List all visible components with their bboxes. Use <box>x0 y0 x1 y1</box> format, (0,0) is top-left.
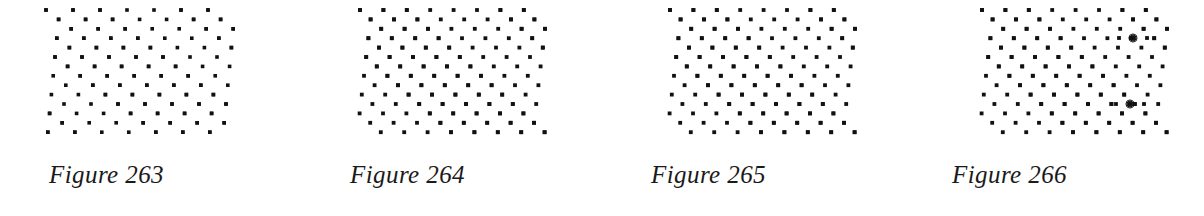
lattice-dot <box>1142 27 1146 31</box>
lattice-dot <box>518 46 522 50</box>
lattice-dot <box>358 8 362 12</box>
lattice-dot <box>749 121 753 125</box>
lattice-dot <box>783 130 787 134</box>
lattice-dot <box>541 46 545 50</box>
lattice-dot <box>1086 102 1090 106</box>
lattice-dot <box>120 65 124 69</box>
lattice-dot <box>369 18 373 22</box>
figure-caption: Figure 265 <box>602 160 903 190</box>
lattice-dot <box>78 74 82 78</box>
lattice-dot <box>1154 121 1158 125</box>
lattice-dot <box>847 83 851 87</box>
lattice-dot <box>382 8 386 12</box>
lattice-dot <box>192 18 196 22</box>
lattice-dot <box>513 83 517 87</box>
lattice-dot <box>1072 27 1076 31</box>
lattice-dot <box>403 27 407 31</box>
lattice-dot <box>515 65 519 69</box>
lattice-dot <box>219 18 223 22</box>
lattice-dot <box>1107 121 1111 125</box>
lattice-dot <box>851 46 855 50</box>
lattice-dot <box>836 74 840 78</box>
lattice-dot <box>143 102 147 106</box>
lattice-dot <box>749 18 753 22</box>
lattice-dot <box>1044 65 1048 69</box>
lattice-dot <box>165 18 169 22</box>
lattice-dot <box>371 102 375 106</box>
lattice-dot <box>212 93 216 97</box>
lattice-dot <box>670 93 674 97</box>
lattice-dot <box>781 46 785 50</box>
lattice-dot <box>1018 83 1022 87</box>
lattice-dot <box>102 112 106 116</box>
lattice-dot <box>57 18 61 22</box>
lattice-dot <box>1118 130 1122 134</box>
lattice-dot <box>46 130 50 134</box>
lattice-dot <box>172 83 176 87</box>
lattice-dot <box>715 8 719 12</box>
lattice-dot <box>1008 74 1012 78</box>
lattice-dot <box>1152 36 1156 40</box>
lattice-dot <box>1144 112 1148 116</box>
lattice-dot <box>1061 121 1065 125</box>
lattice-dot <box>84 18 88 22</box>
lattice-dot <box>522 8 526 12</box>
lattice-dot <box>991 18 995 22</box>
lattice-dot <box>1078 74 1082 78</box>
lattice-dot <box>751 102 755 106</box>
lattice-dot <box>447 46 451 50</box>
lattice-dot <box>774 102 778 106</box>
lattice-dot <box>475 112 479 116</box>
lattice-dot <box>990 121 994 125</box>
lattice-dot <box>430 93 434 97</box>
lattice-dot <box>450 27 454 31</box>
lattice-dot <box>806 27 810 31</box>
lattice-dot <box>176 46 180 50</box>
lattice-dot <box>1004 8 1008 12</box>
lattice-dot <box>60 121 64 125</box>
lattice-dot <box>132 74 136 78</box>
lattice-dot <box>700 36 704 40</box>
lattice-dot <box>505 55 509 59</box>
lattice-dot <box>383 93 387 97</box>
lattice-dot <box>738 112 742 116</box>
lattice-dot <box>526 74 530 78</box>
lattice-dot <box>1027 112 1031 116</box>
lattice-canvas <box>301 0 602 150</box>
lattice-dot <box>424 46 428 50</box>
lattice-dot <box>537 83 541 87</box>
lattice-dot <box>100 130 104 134</box>
lattice-dot <box>71 8 75 12</box>
lattice-dot <box>1097 8 1101 12</box>
lattice-dot <box>528 55 532 59</box>
lattice-dot <box>82 36 86 40</box>
lattice-dot <box>821 102 825 106</box>
lattice-dot <box>1067 65 1071 69</box>
lattice-dot <box>1125 74 1129 78</box>
lattice-dot <box>179 8 183 12</box>
lattice-dot <box>1003 112 1007 116</box>
lattice-dot <box>687 46 691 50</box>
lattice-dot <box>840 36 844 40</box>
lattice-dot <box>66 65 70 69</box>
lattice-dot <box>392 18 396 22</box>
lattice-dot <box>80 55 84 59</box>
lattice-dot <box>138 18 142 22</box>
lattice-dot <box>509 121 513 125</box>
lattice-dot <box>1071 130 1075 134</box>
lattice-dot <box>519 130 523 134</box>
lattice-dot <box>464 102 468 106</box>
asterisk-mark-icon <box>1129 34 1138 43</box>
lattice-dot <box>231 27 235 31</box>
lattice-dot <box>486 18 490 22</box>
lattice-dot <box>435 55 439 59</box>
lattice-canvas <box>0 0 301 150</box>
lattice-dot <box>473 27 477 31</box>
lattice-dot <box>498 112 502 116</box>
lattice-dot <box>190 36 194 40</box>
lattice-dot <box>524 93 528 97</box>
lattice-dot <box>1150 55 1154 59</box>
lattice-dot <box>1082 36 1086 40</box>
lattice-dot <box>181 130 185 134</box>
lattice-dot <box>810 93 814 97</box>
